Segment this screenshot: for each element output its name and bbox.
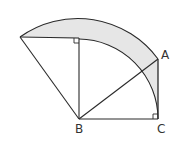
segment-DB: [20, 37, 79, 119]
segment-BA: [79, 59, 158, 119]
label-B: B: [75, 122, 83, 136]
label-A: A: [161, 48, 170, 62]
shaded-band: [20, 18, 158, 107]
label-C: C: [157, 122, 165, 136]
right-angle-marker-C: [153, 114, 158, 119]
geometry-figure: A B C: [0, 0, 180, 144]
